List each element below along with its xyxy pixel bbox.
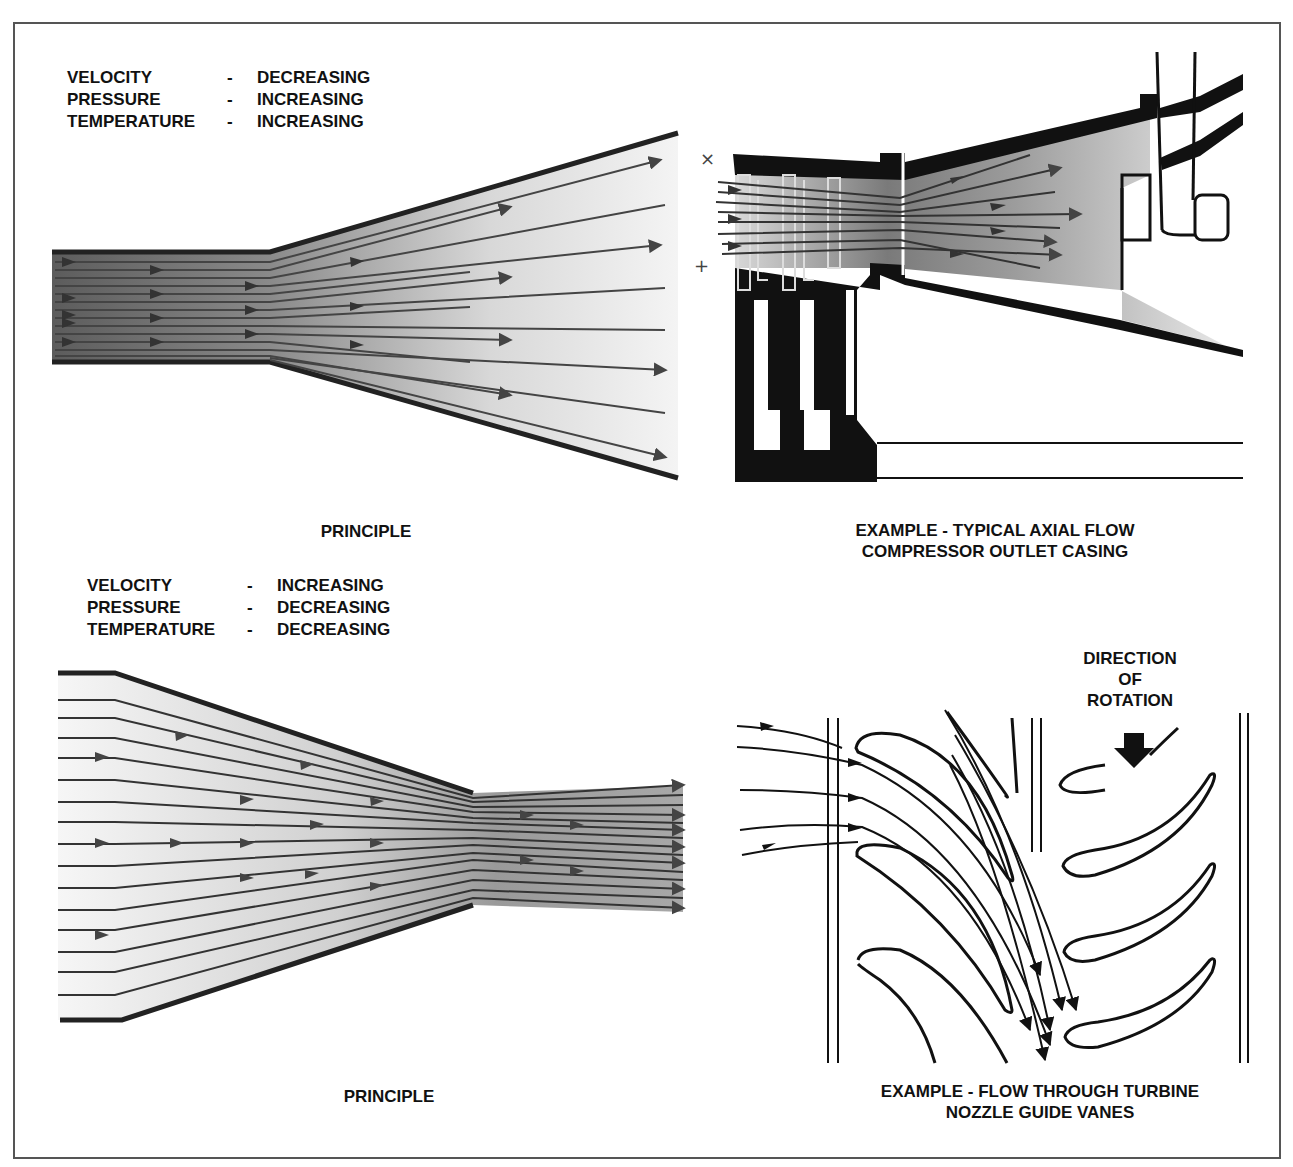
- property-name: PRESSURE: [87, 597, 247, 619]
- property-separator: -: [227, 67, 257, 89]
- property-row: TEMPERATURE - DECREASING: [87, 619, 390, 641]
- caption-line: EXAMPLE - TYPICAL AXIAL FLOW: [805, 520, 1185, 541]
- converging-properties-table: VELOCITY - INCREASING PRESSURE - DECREAS…: [87, 575, 390, 641]
- property-trend: INCREASING: [257, 89, 364, 111]
- property-name: TEMPERATURE: [67, 111, 227, 133]
- property-separator: -: [247, 619, 277, 641]
- caption-line: NOZZLE GUIDE VANES: [830, 1102, 1250, 1123]
- property-trend: INCREASING: [257, 111, 364, 133]
- property-separator: -: [247, 575, 277, 597]
- caption-line: EXAMPLE - FLOW THROUGH TURBINE: [830, 1081, 1250, 1102]
- converging-duct-principle: [58, 673, 683, 1020]
- label-line: OF: [1060, 669, 1200, 690]
- property-trend: DECREASING: [277, 619, 390, 641]
- compressor-example-caption: EXAMPLE - TYPICAL AXIAL FLOW COMPRESSOR …: [805, 520, 1185, 562]
- label-line: DIRECTION: [1060, 648, 1200, 669]
- caption-line: COMPRESSOR OUTLET CASING: [805, 541, 1185, 562]
- svg-text:+: +: [694, 255, 709, 276]
- label-line: ROTATION: [1060, 690, 1200, 711]
- property-row: VELOCITY - DECREASING: [67, 67, 370, 89]
- property-row: TEMPERATURE - INCREASING: [67, 111, 370, 133]
- property-trend: DECREASING: [257, 67, 370, 89]
- compressor-outlet-casing-example: × +: [694, 52, 1243, 482]
- diverging-properties-table: VELOCITY - DECREASING PRESSURE - INCREAS…: [67, 67, 370, 133]
- diverging-principle-caption: PRINCIPLE: [266, 521, 466, 542]
- converging-principle-caption: PRINCIPLE: [289, 1086, 489, 1107]
- property-trend: INCREASING: [277, 575, 384, 597]
- property-row: VELOCITY - INCREASING: [87, 575, 390, 597]
- property-name: VELOCITY: [87, 575, 247, 597]
- turbine-nozzle-guide-vanes-example: [828, 712, 1248, 1063]
- turbine-inlet-arrowheads: [760, 722, 862, 850]
- property-trend: DECREASING: [277, 597, 390, 619]
- property-name: TEMPERATURE: [87, 619, 247, 641]
- property-separator: -: [227, 111, 257, 133]
- property-row: PRESSURE - INCREASING: [67, 89, 370, 111]
- property-name: VELOCITY: [67, 67, 227, 89]
- rotation-direction-arrow-icon: [1114, 733, 1154, 768]
- diverging-duct-principle: [52, 133, 678, 478]
- property-separator: -: [247, 597, 277, 619]
- property-name: PRESSURE: [67, 89, 227, 111]
- property-row: PRESSURE - DECREASING: [87, 597, 390, 619]
- svg-text:×: ×: [700, 148, 715, 169]
- turbine-example-caption: EXAMPLE - FLOW THROUGH TURBINE NOZZLE GU…: [830, 1081, 1250, 1123]
- property-separator: -: [227, 89, 257, 111]
- rotation-direction-label: DIRECTION OF ROTATION: [1060, 648, 1200, 711]
